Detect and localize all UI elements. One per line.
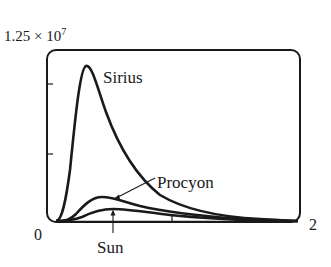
procyon-arrowhead-icon <box>113 195 120 200</box>
sirius-curve <box>56 66 298 221</box>
y-max-label: 1.25 × 107 <box>4 26 66 44</box>
sun-arrowhead-icon <box>111 210 116 216</box>
procyon-arrow <box>116 178 155 198</box>
blackbody-chart: 1.25 × 107 Sirius Procyon Sun 0 2 <box>0 0 331 267</box>
sun-label: Sun <box>97 238 124 257</box>
plot-frame <box>47 50 300 222</box>
procyon-curve <box>56 197 298 221</box>
procyon-label: Procyon <box>157 173 214 192</box>
x-label-0: 0 <box>34 226 42 243</box>
sirius-label: Sirius <box>103 68 143 87</box>
x-label-2: 2 <box>309 216 317 233</box>
